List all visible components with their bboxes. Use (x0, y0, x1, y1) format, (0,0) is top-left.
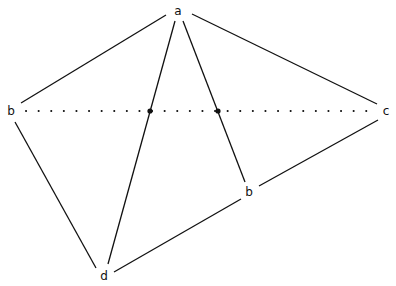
edge-a-b2 (183, 21, 245, 182)
edge-b-d (15, 122, 96, 268)
edge-d-b2 (114, 199, 241, 272)
diagram-canvas (0, 0, 396, 286)
node-label-b-left: b (7, 105, 15, 117)
node-label-c: c (383, 105, 390, 117)
node-label-b-lower: b (245, 186, 253, 198)
geometric-diagram: a b c b d (0, 0, 396, 286)
edge-b2-c (259, 120, 378, 186)
node-label-a: a (174, 5, 181, 17)
intersection-point (215, 108, 220, 113)
edge-a-c (192, 14, 377, 104)
edge-a-d (108, 21, 175, 264)
node-label-d: d (100, 270, 108, 282)
intersection-point (147, 108, 152, 113)
edge-a-b (21, 15, 166, 103)
